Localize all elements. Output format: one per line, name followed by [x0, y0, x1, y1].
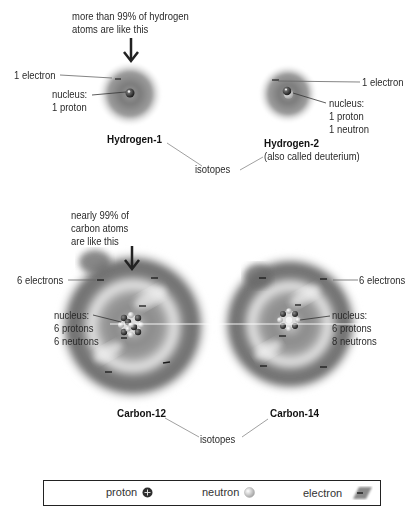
electron-icon	[347, 486, 373, 500]
legend-proton: proton	[106, 486, 153, 499]
neutron-icon	[244, 487, 255, 498]
proton-icon	[142, 487, 153, 498]
legend: proton neutron electron	[43, 480, 381, 506]
carbon-callout: nearly 99% of carbon atoms are like this	[71, 209, 129, 248]
h2-electron-label: 1 electron	[362, 76, 404, 89]
h2-subtitle: (also called deuterium)	[264, 150, 360, 163]
legend-neutron: neutron	[202, 486, 255, 499]
hydrogen-callout: more than 99% of hydrogen atoms are like…	[72, 10, 189, 36]
c12-nucleus-label: nucleus: 6 protons 6 neutrons	[54, 309, 99, 348]
c14-title: Carbon-14	[270, 407, 319, 420]
h2-nucleus-label: nucleus: 1 proton 1 neutron	[329, 97, 369, 136]
c14-nucleus-label: nucleus: 6 protons 8 neutrons	[332, 309, 377, 348]
h2-title-block: Hydrogen-2 (also called deuterium)	[264, 137, 360, 163]
h1-nucleus-label: nucleus: 1 proton	[52, 88, 87, 114]
hydrogen-2-atom	[258, 64, 318, 124]
c12-title: Carbon-12	[117, 407, 166, 420]
h2-title: Hydrogen-2	[264, 137, 360, 150]
hydrogen-isotopes-label: isotopes	[195, 163, 230, 176]
diagram-canvas	[0, 0, 416, 528]
h1-electron-label: 1 electron	[14, 69, 56, 82]
c12-electron-label: 6 electrons	[17, 274, 63, 287]
down-arrow-icon	[124, 38, 138, 61]
c14-electron-label: 6 electrons	[359, 274, 405, 287]
carbon-isotopes-label: isotopes	[200, 433, 235, 446]
nucleus-c12	[118, 312, 144, 338]
proton-icon	[126, 89, 135, 98]
legend-electron: electron	[303, 486, 373, 500]
proton-icon	[283, 87, 292, 96]
h1-title: Hydrogen-1	[107, 133, 162, 146]
